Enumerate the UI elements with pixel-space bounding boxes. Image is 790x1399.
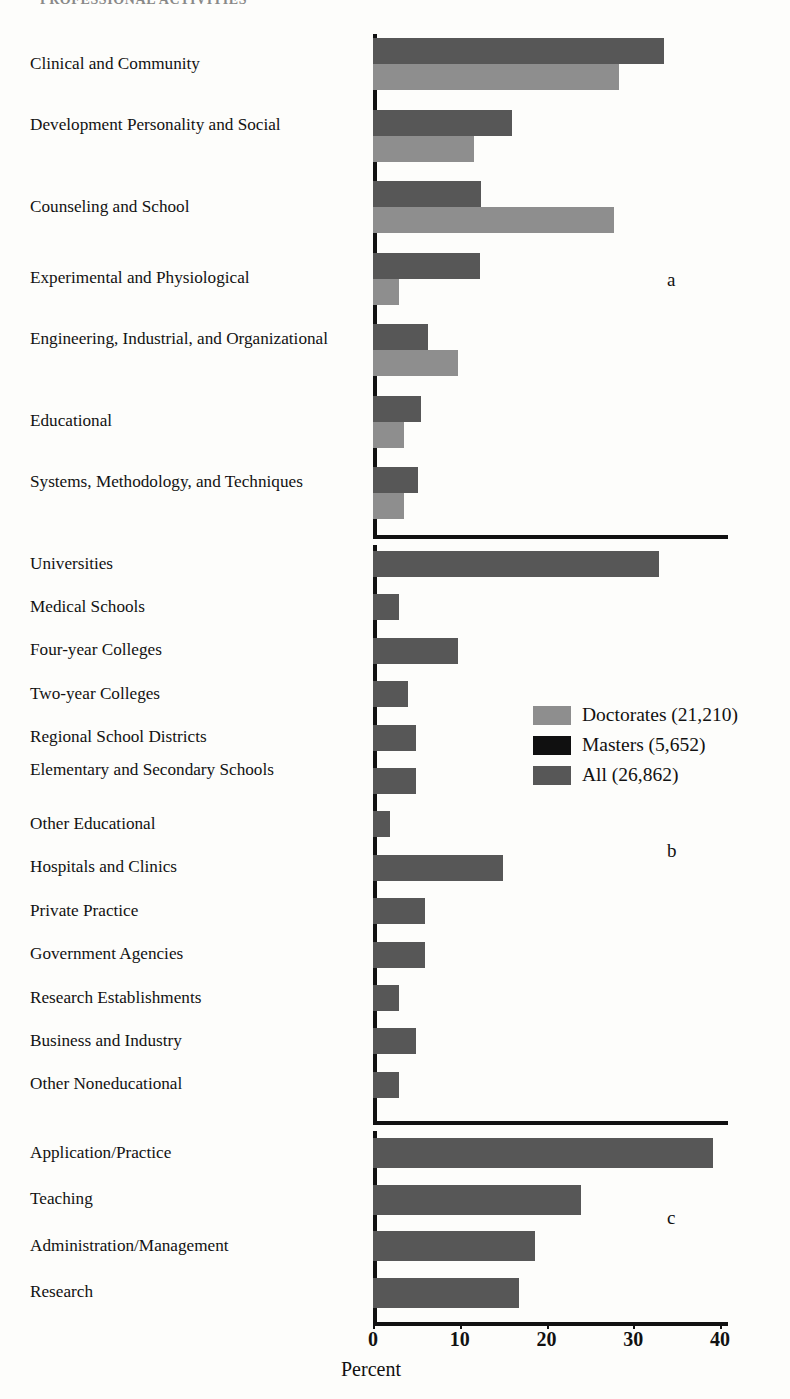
bar-doc (373, 207, 614, 233)
bar-all (373, 811, 390, 837)
bar-all (373, 1028, 416, 1054)
bar-all (373, 1072, 399, 1098)
legend-item: Doctorates (21,210) (533, 700, 738, 730)
bar-all (373, 181, 481, 207)
chart-legend: Doctorates (21,210)Masters (5,652)All (2… (533, 700, 738, 790)
bar-all (373, 467, 418, 493)
category-label: Medical Schools (30, 596, 366, 617)
category-label: Other Noneducational (30, 1073, 366, 1094)
bar-all (373, 1138, 713, 1168)
legend-swatch-all (533, 766, 571, 785)
bar-doc (373, 136, 474, 162)
x-axis-title: Percent (0, 1358, 790, 1381)
legend-swatch-doc (533, 706, 571, 725)
bar-all (373, 38, 664, 64)
panel-mark-c: c (667, 1207, 675, 1229)
bar-all (373, 324, 428, 350)
bar-all (373, 253, 480, 279)
panel-a-x-axis (373, 535, 728, 539)
legend-label: Masters (5,652) (582, 734, 705, 756)
bar-all (373, 1185, 581, 1215)
legend-label: All (26,862) (582, 764, 678, 786)
panel-b-plot-area (373, 545, 728, 1125)
x-axis-ticks: 010203040 (373, 1322, 728, 1362)
bar-all (373, 396, 421, 422)
category-label: Clinical and Community (30, 53, 366, 74)
panel-mark-b: b (667, 840, 677, 862)
bar-all (373, 1278, 519, 1308)
bar-all (373, 985, 399, 1011)
figure-title: PROFESSIONAL ACTIVITIES (40, 0, 460, 8)
category-label: Regional School Districts (30, 726, 366, 747)
bar-doc (373, 350, 458, 376)
x-tick-label: 20 (537, 1328, 557, 1351)
bar-all (373, 1231, 535, 1261)
bar-doc (373, 493, 404, 519)
bar-doc (373, 64, 619, 90)
bar-doc (373, 422, 404, 448)
category-label: Research Establishments (30, 987, 366, 1008)
category-label: Systems, Methodology, and Techniques (30, 471, 366, 492)
category-label: Other Educational (30, 813, 366, 834)
legend-swatch-mas (533, 736, 571, 755)
bar-all (373, 768, 416, 794)
panel-b-x-axis (373, 1121, 728, 1125)
x-tick-label: 40 (710, 1328, 730, 1351)
category-label: Four-year Colleges (30, 639, 366, 660)
figure-canvas: PROFESSIONAL ACTIVITIES a b c Doctorates… (0, 0, 790, 1399)
panel-mark-a: a (667, 269, 675, 291)
legend-item: Masters (5,652) (533, 730, 738, 760)
bar-all (373, 594, 399, 620)
bar-all (373, 942, 425, 968)
category-label: Elementary and Secondary Schools (30, 759, 366, 780)
category-label: Experimental and Physiological (30, 267, 366, 288)
category-label: Government Agencies (30, 943, 366, 964)
category-label: Hospitals and Clinics (30, 856, 366, 877)
bar-all (373, 551, 659, 577)
x-tick-label: 30 (623, 1328, 643, 1351)
legend-item: All (26,862) (533, 760, 738, 790)
category-label: Administration/Management (30, 1235, 366, 1256)
category-label: Teaching (30, 1188, 366, 1209)
x-tick-label: 0 (368, 1328, 378, 1351)
category-label: Two-year Colleges (30, 683, 366, 704)
bar-all (373, 725, 416, 751)
category-label: Private Practice (30, 900, 366, 921)
category-label: Educational (30, 410, 366, 431)
category-label: Application/Practice (30, 1142, 366, 1163)
category-label: Universities (30, 553, 366, 574)
bar-all (373, 898, 425, 924)
bar-all (373, 855, 503, 881)
category-label: Business and Industry (30, 1030, 366, 1051)
category-label: Research (30, 1281, 366, 1302)
bar-all (373, 638, 458, 664)
legend-label: Doctorates (21,210) (582, 704, 738, 726)
bar-all (373, 110, 512, 136)
x-axis-title-text: Percent (341, 1358, 401, 1380)
bar-all (373, 681, 408, 707)
bar-doc (373, 279, 399, 305)
category-label: Counseling and School (30, 196, 366, 217)
x-tick-label: 10 (450, 1328, 470, 1351)
category-label: Development Personality and Social (30, 114, 366, 135)
category-label: Engineering, Industrial, and Organizatio… (30, 328, 366, 349)
